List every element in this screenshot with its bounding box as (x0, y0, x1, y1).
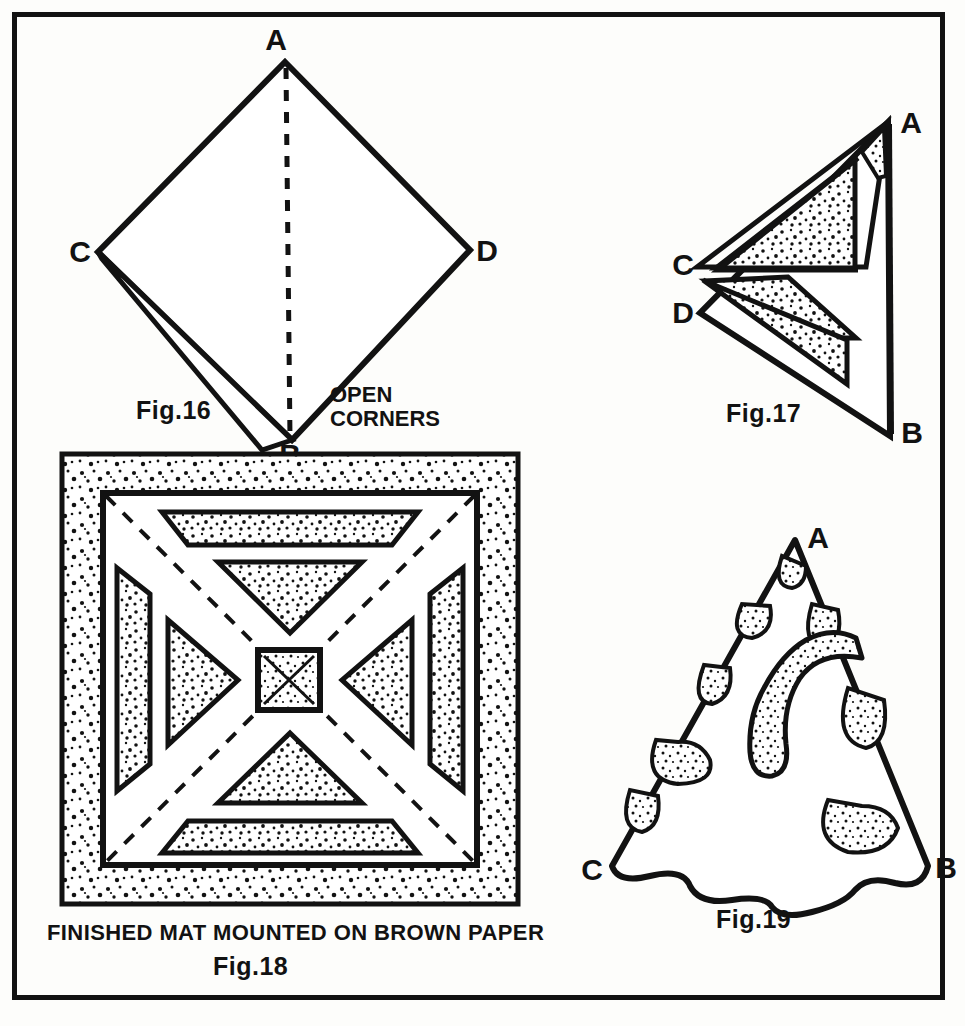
figure-plate-page: A C D B Fig.16 OPEN CORNERS (0, 0, 965, 1026)
fig19-label-B: B (935, 851, 957, 884)
fig17-right-edge (889, 124, 891, 434)
fig16-annotation-open: OPEN (330, 382, 392, 407)
fig19-caption: Fig.19 (716, 905, 791, 933)
fig19-label-C: C (581, 853, 603, 886)
fig16-label-A: A (265, 23, 287, 56)
fig17-label-A: A (900, 106, 922, 139)
fig19-cut-shape-right-2 (843, 688, 885, 748)
figure-19-group: A C B Fig.19 (581, 521, 957, 933)
fig18-caption: Fig.18 (213, 952, 288, 980)
plate-illustration: A C D B Fig.16 OPEN CORNERS (0, 0, 965, 1026)
fig18-cutout-trapezoid-top (162, 512, 418, 545)
fig16-caption: Fig.16 (136, 396, 211, 424)
fig19-cut-shape-left-4 (626, 790, 659, 832)
fig18-cutout-trapezoid-right (430, 568, 463, 791)
fig19-cut-shape-left-3 (652, 740, 711, 784)
fig18-subcaption: FINISHED MAT MOUNTED ON BROWN PAPER (47, 920, 544, 945)
fig16-label-C: C (69, 235, 91, 268)
figure-16-group: A C D B Fig.16 OPEN CORNERS (69, 23, 498, 471)
fig18-cutout-trapezoid-bottom (162, 821, 418, 853)
cropped-body-text (0, 1014, 965, 1026)
fig17-caption: Fig.17 (726, 399, 801, 427)
fig16-label-D: D (476, 234, 498, 267)
figure-18-group: FINISHED MAT MOUNTED ON BROWN PAPER Fig.… (47, 454, 544, 980)
fig19-cut-shape-left-1 (737, 604, 771, 638)
fig19-label-A: A (807, 521, 829, 554)
fig17-label-D: D (672, 296, 694, 329)
fig16-diamond-outline (98, 62, 470, 440)
fig18-cutout-trapezoid-left (117, 568, 150, 791)
fig17-label-C: C (672, 248, 694, 281)
fig16-annotation-corners: CORNERS (330, 406, 440, 431)
fig17-label-B: B (901, 416, 923, 449)
figure-17-group: A C D B Fig.17 (672, 106, 923, 449)
